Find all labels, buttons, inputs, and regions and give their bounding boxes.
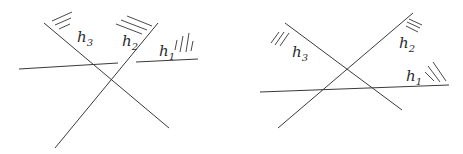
line-h2	[278, 13, 413, 128]
hatch-h3	[271, 32, 289, 46]
label-h2: h2	[122, 32, 138, 52]
label-h1: h1	[406, 67, 422, 87]
line-h3	[285, 23, 402, 110]
hatch-h2	[406, 19, 422, 32]
label-h2: h2	[399, 34, 415, 54]
hatch-h3	[52, 12, 72, 29]
right-diagram: h3 h2 h1	[260, 13, 449, 128]
line-h2	[55, 23, 158, 148]
label-h3: h3	[77, 28, 93, 48]
line-h1	[19, 63, 118, 69]
half-planes-diagram: h3 h2 h1 h3 h2 h1	[0, 0, 463, 154]
left-diagram: h3 h2 h1	[19, 12, 198, 148]
line-h3	[44, 23, 169, 128]
label-h1: h1	[159, 42, 175, 62]
label-h3: h3	[292, 43, 308, 63]
hatch-h1	[425, 62, 446, 82]
hatch-h1	[175, 33, 193, 52]
